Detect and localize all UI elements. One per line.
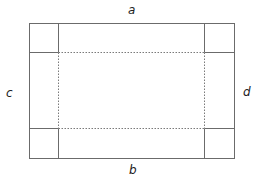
- label-right-d: d: [243, 86, 251, 98]
- fold-lines: [59, 53, 205, 129]
- diagram-canvas: [0, 0, 259, 182]
- label-left-c: c: [6, 87, 13, 99]
- corner-square-bottom-right: [205, 129, 235, 159]
- corner-square-top-left: [30, 24, 59, 53]
- corner-square-bottom-left: [30, 129, 59, 159]
- corner-square-top-right: [205, 24, 235, 53]
- label-bottom-b: b: [129, 164, 137, 176]
- outer-rectangle: [30, 24, 235, 159]
- label-top-a: a: [128, 4, 135, 16]
- box-net-diagram: a b c d: [0, 0, 259, 182]
